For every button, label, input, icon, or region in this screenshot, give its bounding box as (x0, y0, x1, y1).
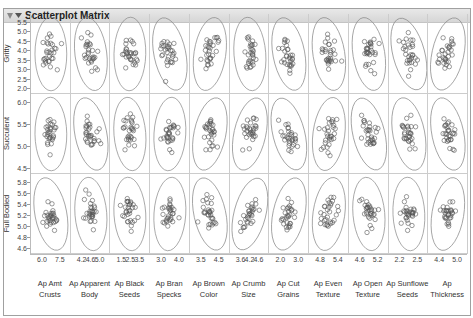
x-tick-label: 6.0 (37, 256, 47, 263)
scatter-cell[interactable] (349, 174, 389, 254)
y-tick-label: 5.2 (17, 212, 27, 219)
y-tick-label: 5.6 (17, 190, 27, 197)
x-tick-label: 4.5 (214, 256, 224, 263)
x-tick-label: 4.4 (434, 256, 444, 263)
scatter-cell[interactable] (428, 174, 468, 254)
scatter-cell[interactable] (230, 94, 270, 174)
scatter-cell[interactable] (230, 14, 270, 94)
x-tick-label: 2.0 (275, 256, 285, 263)
scatter-cell[interactable] (269, 14, 309, 94)
x-axis-name: Ap SunfloweSeeds (385, 278, 429, 300)
y-tick-label: 5.0 (17, 28, 27, 35)
x-tick-label: 4.8 (315, 256, 325, 263)
x-tick-label: 4.6 (254, 256, 264, 263)
scatter-cell[interactable] (190, 94, 230, 174)
y-tick-label: 5.4 (17, 201, 27, 208)
scatter-cell[interactable] (230, 174, 270, 254)
x-tick-label: 2.5 (412, 256, 422, 263)
x-tick-label: 7.5 (55, 256, 65, 263)
x-tick-label: 3.5 (134, 256, 144, 263)
x-axis-name: Ap AmtCrusts (28, 278, 72, 300)
y-tick-label: 5.5 (17, 19, 27, 26)
y-tick-label: 4.5 (17, 37, 27, 44)
y-tick-label: 5.8 (17, 179, 27, 186)
x-axis-name: Ap CutGrains (266, 278, 310, 300)
x-axis-name: ApThickness (425, 278, 469, 300)
x-axis-name: Ap BlackSeeds (107, 278, 151, 300)
scatter-cell[interactable] (190, 14, 230, 94)
scatter-cell[interactable] (71, 174, 111, 254)
x-axis-name: Ap CrumbSize (227, 278, 271, 300)
scatter-cell[interactable] (428, 94, 468, 174)
x-tick-label: 3.5 (196, 256, 206, 263)
scatter-cell[interactable] (31, 14, 71, 94)
scatter-cell[interactable] (389, 94, 429, 174)
scatter-cell[interactable] (349, 14, 389, 94)
scatterplot-matrix[interactable] (30, 14, 468, 254)
y-tick-label: 3.0 (17, 66, 27, 73)
x-tick-label: 5.2 (373, 256, 383, 263)
y-axis-name: Succulent (2, 104, 11, 164)
x-tick-label: 5.0 (95, 256, 105, 263)
y-tick-label: 4.8 (17, 234, 27, 241)
x-tick-label: 4.6 (355, 256, 365, 263)
scatter-cell[interactable] (150, 174, 190, 254)
scatter-cell[interactable] (110, 174, 150, 254)
scatter-cell[interactable] (31, 174, 71, 254)
x-tick-label: 5.0 (452, 256, 462, 263)
x-tick-label: 2.2 (395, 256, 405, 263)
scatter-cell[interactable] (428, 14, 468, 94)
scatter-cell[interactable] (389, 14, 429, 94)
x-tick-label: 5.4 (333, 256, 343, 263)
y-tick-label: 5.0 (17, 223, 27, 230)
y-axis-labels: 5.55.04.54.03.53.02.52.0Gritty6.05.55.04… (0, 14, 30, 254)
scatter-cell[interactable] (71, 94, 111, 174)
scatter-cell[interactable] (309, 94, 349, 174)
x-axis-names: Ap AmtCrustsAp ApparentBodyAp BlackSeeds… (30, 278, 467, 308)
x-axis-name: Ap OpenTexture (346, 278, 390, 300)
scatter-cell[interactable] (269, 94, 309, 174)
x-axis-ticks: 6.07.54.24.65.01.52.53.53.04.03.54.53.64… (30, 256, 467, 270)
y-tick-label: 4.5 (17, 165, 27, 172)
scatter-cell[interactable] (349, 94, 389, 174)
y-tick-label: 4.6 (17, 245, 27, 252)
scatter-cell[interactable] (71, 14, 111, 94)
scatter-cell[interactable] (150, 14, 190, 94)
x-axis-name: Ap BrownColor (187, 278, 231, 300)
scatter-cell[interactable] (150, 94, 190, 174)
x-axis-name: Ap BranSpecks (147, 278, 191, 300)
scatter-cell[interactable] (389, 174, 429, 254)
y-axis-name: Gritty (2, 24, 11, 84)
x-axis-name: Ap ApparentBody (68, 278, 112, 300)
scatter-cell[interactable] (309, 14, 349, 94)
scatter-cell[interactable] (31, 94, 71, 174)
y-tick-label: 5.5 (17, 121, 27, 128)
y-tick-label: 4.0 (17, 47, 27, 54)
scatter-cell[interactable] (190, 174, 230, 254)
y-axis-name: Full Bodied (2, 184, 11, 244)
x-tick-label: 3.0 (293, 256, 303, 263)
y-tick-label: 5.0 (17, 143, 27, 150)
x-tick-label: 4.0 (174, 256, 184, 263)
y-tick-label: 6.0 (17, 99, 27, 106)
scatter-cell[interactable] (110, 14, 150, 94)
y-tick-label: 3.5 (17, 56, 27, 63)
scatter-cell[interactable] (309, 174, 349, 254)
y-tick-label: 2.0 (17, 85, 27, 92)
y-tick-label: 2.5 (17, 75, 27, 82)
x-tick-label: 3.0 (156, 256, 166, 263)
scatter-cell[interactable] (110, 94, 150, 174)
x-axis-name: Ap EvenTexture (306, 278, 350, 300)
scatter-cell[interactable] (269, 174, 309, 254)
